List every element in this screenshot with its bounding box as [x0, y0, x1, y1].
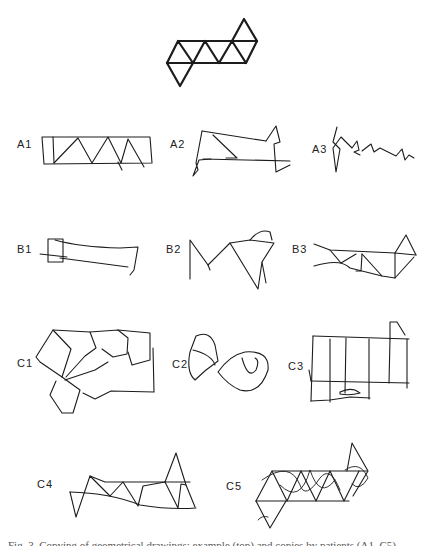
label-c1: C1 — [17, 357, 33, 369]
label-c5: C5 — [226, 480, 242, 492]
label-a1: A1 — [17, 138, 32, 150]
drawing-c2 — [189, 334, 268, 391]
label-c3: C3 — [288, 360, 304, 372]
label-c4: C4 — [37, 478, 53, 490]
figure-caption: Fig. 3. Copying of geometrical drawings:… — [8, 538, 434, 546]
drawing-c1 — [36, 330, 154, 413]
drawing-a2 — [193, 126, 290, 176]
figure-drawings — [0, 0, 434, 546]
drawing-c5 — [256, 443, 368, 528]
drawing-b1 — [40, 239, 138, 275]
label-a2: A2 — [170, 138, 185, 150]
label-a3: A3 — [312, 143, 327, 155]
drawing-c3 — [309, 322, 409, 402]
drawing-a1 — [42, 137, 152, 170]
model-drawing — [167, 19, 257, 86]
label-b1: B1 — [17, 243, 32, 255]
drawing-b2 — [190, 231, 274, 289]
label-c2: C2 — [172, 358, 188, 370]
label-b2: B2 — [166, 243, 181, 255]
drawing-c4 — [70, 453, 196, 517]
drawing-a3 — [333, 127, 414, 172]
drawing-b3 — [314, 235, 416, 278]
label-b3: B3 — [292, 243, 307, 255]
